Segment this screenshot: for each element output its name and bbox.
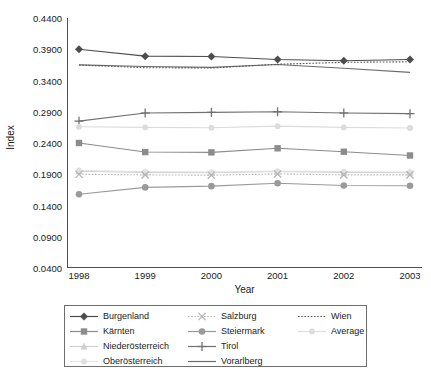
legend-item-burgenland[interactable]: Burgenland — [69, 309, 187, 324]
data-point-marker — [208, 149, 214, 155]
data-point-marker — [274, 145, 280, 151]
y-tick-label: 0.4400 — [20, 13, 62, 24]
legend-spacer — [297, 339, 372, 354]
data-point-marker — [339, 109, 348, 118]
y-axis-tick-labels: 0.04000.09000.14000.19000.24000.29000.34… — [18, 18, 62, 268]
chart-legend: BurgenlandSalzburgWienKärntenSteiermarkA… — [64, 305, 367, 367]
data-point-marker — [407, 152, 413, 158]
legend-spacer — [297, 354, 372, 369]
legend-key-icon — [69, 311, 99, 322]
legend-label: Oberösterreich — [103, 354, 163, 369]
data-point-marker — [341, 149, 347, 155]
data-point-marker — [207, 108, 216, 117]
legend-item-average[interactable]: Average — [297, 324, 372, 339]
series-average — [76, 123, 413, 131]
legend-label: Average — [331, 324, 364, 339]
legend-label: Steiermark — [221, 324, 265, 339]
y-tick-label: 0.2400 — [20, 138, 62, 149]
series-burgenland — [75, 45, 414, 65]
data-point-marker — [199, 328, 206, 335]
plot-area — [67, 18, 422, 268]
legend-label: Burgenland — [103, 309, 149, 324]
legend-label: Salzburg — [221, 309, 257, 324]
line-chart: Index 0.04000.09000.14000.19000.24000.29… — [0, 0, 431, 379]
legend-key-icon — [187, 356, 217, 367]
data-point-marker — [142, 184, 149, 191]
data-point-marker — [198, 342, 207, 351]
data-point-marker — [142, 124, 148, 130]
data-point-marker — [341, 182, 348, 189]
data-point-marker — [207, 52, 215, 60]
series-vorarlberg — [79, 65, 410, 73]
data-point-marker — [407, 125, 413, 131]
data-point-marker — [209, 169, 215, 175]
legend-item-wien[interactable]: Wien — [297, 309, 372, 324]
legend-item-steiermark[interactable]: Steiermark — [187, 324, 297, 339]
data-point-marker — [76, 140, 82, 146]
data-point-marker — [75, 45, 83, 53]
legend-label: Vorarlberg — [221, 354, 263, 369]
series-canvas — [67, 18, 422, 268]
data-point-marker — [141, 52, 149, 60]
data-point-marker — [81, 328, 87, 334]
x-tick-label: 2000 — [201, 270, 222, 281]
legend-label: Wien — [331, 309, 352, 324]
legend-item-nieder-sterreich[interactable]: Niederösterreich — [69, 339, 187, 354]
data-point-marker — [340, 57, 348, 65]
x-tick-label: 2001 — [267, 270, 288, 281]
legend-key-icon — [187, 311, 217, 322]
data-point-marker — [208, 183, 215, 190]
y-tick-label: 0.1400 — [20, 200, 62, 211]
data-point-marker — [275, 123, 281, 129]
legend-key-icon — [69, 326, 99, 337]
legend-label: Niederösterreich — [103, 339, 169, 354]
axis-lines — [67, 18, 422, 268]
data-point-marker — [274, 180, 281, 187]
legend-key-icon — [297, 311, 327, 322]
x-tick-label: 2002 — [333, 270, 354, 281]
y-tick-label: 0.2900 — [20, 106, 62, 117]
y-tick-label: 0.3400 — [20, 75, 62, 86]
y-tick-label: 0.0400 — [20, 263, 62, 274]
legend-item-k-rnten[interactable]: Kärnten — [69, 324, 187, 339]
y-tick-label: 0.1900 — [20, 169, 62, 180]
x-tick-label: 1998 — [68, 270, 89, 281]
data-point-marker — [76, 191, 83, 198]
series-steiermark — [76, 180, 414, 198]
data-point-marker — [80, 313, 88, 321]
y-axis-title: Index — [2, 0, 18, 275]
data-point-marker — [406, 56, 414, 64]
data-point-marker — [407, 183, 414, 190]
legend-key-icon — [69, 341, 99, 352]
data-point-marker — [142, 169, 148, 175]
data-point-marker — [141, 109, 150, 118]
legend-label: Tirol — [221, 339, 238, 354]
y-tick-label: 0.3900 — [20, 44, 62, 55]
data-point-marker — [81, 359, 87, 365]
y-tick-label: 0.0900 — [20, 231, 62, 242]
data-point-marker — [274, 56, 282, 64]
legend-items: BurgenlandSalzburgWienKärntenSteiermarkA… — [65, 306, 366, 366]
legend-item-salzburg[interactable]: Salzburg — [187, 309, 297, 324]
x-tick-label: 1999 — [135, 270, 156, 281]
legend-key-icon — [187, 326, 217, 337]
series-ober-sterreich — [76, 168, 413, 175]
data-point-marker — [309, 329, 315, 335]
data-point-marker — [273, 107, 282, 116]
series-wien — [79, 62, 410, 68]
data-point-marker — [76, 124, 82, 130]
series-k-rnten — [76, 140, 413, 159]
data-point-marker — [406, 109, 415, 118]
data-point-marker — [209, 125, 215, 131]
data-point-marker — [142, 149, 148, 155]
series-tirol — [75, 107, 415, 125]
x-axis-title: Year — [67, 284, 422, 295]
legend-label: Kärnten — [103, 324, 135, 339]
legend-item-ober-sterreich[interactable]: Oberösterreich — [69, 354, 187, 369]
legend-item-vorarlberg[interactable]: Vorarlberg — [187, 354, 297, 369]
legend-key-icon — [69, 356, 99, 367]
data-point-marker — [341, 124, 347, 130]
legend-item-tirol[interactable]: Tirol — [187, 339, 297, 354]
x-axis-tick-labels: 199819992000200120022003 — [67, 270, 422, 284]
legend-key-icon — [297, 326, 327, 337]
